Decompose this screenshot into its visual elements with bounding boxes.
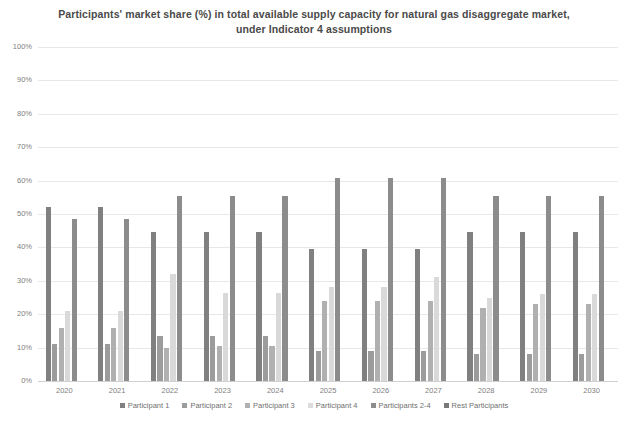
bar[interactable]	[546, 196, 551, 381]
legend-swatch-icon	[308, 403, 313, 408]
bar[interactable]	[335, 178, 340, 381]
plot-area	[38, 47, 618, 381]
y-axis-tick-label: 60%	[0, 177, 32, 185]
bar[interactable]	[52, 344, 57, 381]
bar[interactable]	[151, 232, 156, 381]
bar[interactable]	[527, 354, 532, 381]
bar[interactable]	[269, 346, 274, 381]
legend-item-label: Rest Participants	[452, 401, 509, 410]
y-axis-tick-label: 70%	[0, 143, 32, 151]
legend-item[interactable]: Participant 2	[182, 401, 232, 410]
legend-swatch-icon	[444, 403, 449, 408]
bar[interactable]	[520, 232, 525, 381]
chart-legend: Participant 1Participant 2Participant 3P…	[0, 401, 628, 410]
bar[interactable]	[493, 196, 498, 381]
bar[interactable]	[256, 232, 261, 381]
bar[interactable]	[170, 274, 175, 381]
bar[interactable]	[59, 328, 64, 381]
bar[interactable]	[599, 196, 604, 381]
bar[interactable]	[579, 354, 584, 381]
bar[interactable]	[441, 178, 446, 381]
bar[interactable]	[322, 301, 327, 381]
legend-swatch-icon	[371, 403, 376, 408]
bar[interactable]	[282, 196, 287, 381]
x-axis-tick-label: 2022	[143, 386, 196, 395]
legend-item[interactable]: Rest Participants	[444, 401, 509, 410]
x-axis-tick-label: 2028	[460, 386, 513, 395]
bar[interactable]	[487, 298, 492, 382]
x-axis-line	[38, 381, 618, 382]
bar[interactable]	[230, 196, 235, 381]
bar-group	[573, 47, 611, 381]
bar[interactable]	[164, 348, 169, 381]
bar-group	[98, 47, 136, 381]
bar[interactable]	[223, 293, 228, 382]
y-axis-tick-label: 50%	[0, 210, 32, 218]
x-axis-tick-label: 2025	[302, 386, 355, 395]
y-axis-tick-label: 30%	[0, 277, 32, 285]
bar[interactable]	[329, 287, 334, 381]
legend-item-label: Participant 3	[253, 401, 295, 410]
bar[interactable]	[368, 351, 373, 381]
bar[interactable]	[111, 328, 116, 381]
bar[interactable]	[118, 311, 123, 381]
legend-item[interactable]: Participant 4	[308, 401, 358, 410]
x-axis-tick-label: 2029	[513, 386, 566, 395]
bar[interactable]	[592, 294, 597, 381]
bar[interactable]	[533, 304, 538, 381]
bar[interactable]	[124, 219, 129, 381]
bar[interactable]	[105, 344, 110, 381]
bar[interactable]	[434, 277, 439, 381]
legend-swatch-icon	[182, 403, 187, 408]
bar[interactable]	[72, 219, 77, 381]
bar[interactable]	[217, 346, 222, 381]
x-axis-tick-label: 2026	[354, 386, 407, 395]
legend-item[interactable]: Participant 3	[245, 401, 295, 410]
legend-item-label: Participant 1	[128, 401, 170, 410]
bar[interactable]	[177, 196, 182, 381]
bar-group	[520, 47, 558, 381]
y-axis-tick-label: 80%	[0, 110, 32, 118]
bar[interactable]	[586, 304, 591, 381]
y-axis-tick-label: 100%	[0, 43, 32, 51]
bar-group	[204, 47, 242, 381]
y-axis-tick-label: 10%	[0, 344, 32, 352]
bar[interactable]	[98, 207, 103, 381]
bar[interactable]	[276, 293, 281, 382]
bar[interactable]	[263, 336, 268, 381]
bar[interactable]	[573, 232, 578, 381]
legend-item[interactable]: Participants 2-4	[371, 401, 431, 410]
y-axis-tick-label: 0%	[0, 377, 32, 385]
x-axis-tick-label: 2020	[38, 386, 91, 395]
bar[interactable]	[381, 287, 386, 381]
bar-group	[151, 47, 189, 381]
bar[interactable]	[474, 354, 479, 381]
bar[interactable]	[428, 301, 433, 381]
bar[interactable]	[421, 351, 426, 381]
bar[interactable]	[362, 249, 367, 381]
bar-group	[415, 47, 453, 381]
bar[interactable]	[46, 207, 51, 381]
chart-title-line-2: under Indicator 4 assumptions	[40, 22, 588, 37]
bar[interactable]	[415, 249, 420, 381]
bar[interactable]	[467, 232, 472, 381]
bar-group	[46, 47, 84, 381]
bar-group	[309, 47, 347, 381]
bar[interactable]	[388, 178, 393, 381]
bar[interactable]	[375, 301, 380, 381]
bar[interactable]	[316, 351, 321, 381]
bar[interactable]	[204, 232, 209, 381]
bar-group	[467, 47, 505, 381]
bar[interactable]	[65, 311, 70, 381]
chart-title: Participants' market share (%) in total …	[40, 7, 588, 37]
bar[interactable]	[480, 308, 485, 381]
bar[interactable]	[157, 336, 162, 381]
bar[interactable]	[309, 249, 314, 381]
bar[interactable]	[540, 294, 545, 381]
bar[interactable]	[210, 336, 215, 381]
x-axis-tick-label: 2024	[249, 386, 302, 395]
legend-swatch-icon	[120, 403, 125, 408]
x-axis-tick-label: 2021	[91, 386, 144, 395]
legend-item[interactable]: Participant 1	[120, 401, 170, 410]
bar-chart: Participants' market share (%) in total …	[0, 0, 628, 425]
